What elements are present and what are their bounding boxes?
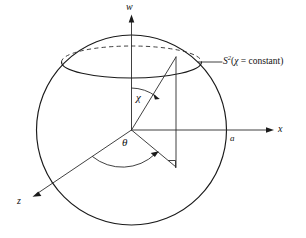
x-axis-arrowhead [266,127,274,133]
figure-container: w x z χ θ a S2(χ = constant) [0,0,306,238]
surface-label: S2(χ = constant) [223,55,283,67]
theta-angle-label: θ [122,137,127,148]
w-axis-arrowhead [129,15,135,23]
equatorial-projection-line [132,130,177,167]
z-axis-arrowhead [33,191,42,196]
surface-label-close-paren: ) [280,56,283,66]
chi-angle-label: χ [136,92,141,103]
diagram-canvas [0,0,306,238]
z-axis-label: z [17,196,21,206]
w-axis-label: w [126,2,133,12]
theta-angle-arrowhead [151,151,159,157]
chi-angle-arrowhead [153,94,159,100]
sphere-radius-label: a [230,134,235,143]
surface-label-equals: = [238,56,248,66]
z-axis-line [38,130,132,193]
theta-angle-arc [93,154,156,167]
x-axis-label: x [278,124,282,134]
surface-label-value: constant [248,56,280,66]
